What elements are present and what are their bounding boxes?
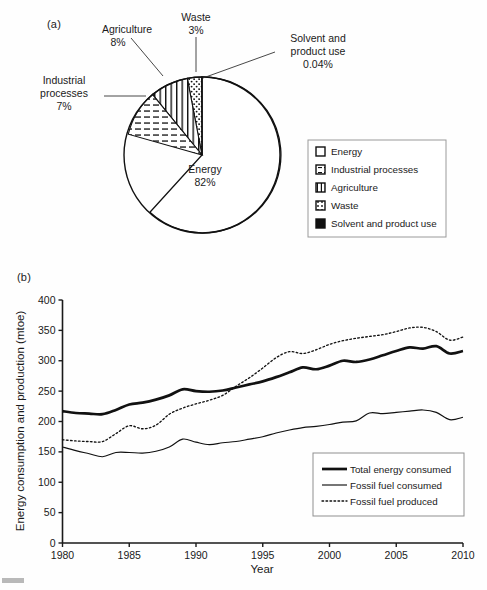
pie-legend-item-energy[interactable]: Energy (316, 146, 362, 157)
pie-legend-label-solvent-and-product-use: Solvent and product use (331, 218, 437, 229)
line-chart-legend: Total energy consumed Fossil fuel consum… (313, 453, 464, 516)
line-chart: 050100150200250300350400 198019851990199… (14, 294, 475, 575)
x-tick-label: 2000 (318, 549, 342, 561)
y-tick-label: 250 (38, 385, 56, 397)
line-legend-label-fossil-fuel-produced: Fossil fuel produced (350, 496, 438, 507)
page-edge-mark (2, 578, 24, 583)
x-tick-label: 1990 (184, 549, 208, 561)
line-legend-label-fossil-fuel-consumed: Fossil fuel consumed (350, 480, 442, 491)
pie-legend-item-industrial-processes[interactable]: Industrial processes (316, 164, 418, 175)
pie-legend-swatch-solvent-and-product-use (316, 219, 325, 228)
series-line-fossil-fuel-consumed[interactable] (63, 410, 464, 457)
y-tick-label: 100 (38, 476, 56, 488)
leader-line-agriculture (131, 38, 163, 76)
pie-callout-solvent-label-line2: product use (291, 45, 346, 57)
pie-legend-item-agriculture[interactable]: Agriculture (316, 182, 378, 193)
figure-canvas: Agriculture 8% Waste 3% Solvent and prod… (0, 0, 487, 590)
pie-callout-solvent-value: 0.04% (303, 58, 333, 70)
x-axis-title: Year (250, 563, 273, 575)
line-legend-label-total-energy-consumed: Total energy consumed (350, 464, 451, 475)
pie-callout-industrial-label-line2: processes (40, 87, 88, 99)
y-tick-label: 300 (38, 354, 56, 366)
y-axis-tick-labels: 050100150200250300350400 (38, 294, 56, 549)
pie-callout-solvent-label-line1: Solvent and (290, 32, 346, 44)
series-line-total-energy-consumed[interactable] (63, 346, 464, 414)
pie-callout-energy-value: 82% (194, 176, 215, 188)
y-tick-label: 350 (38, 324, 56, 336)
y-tick-label: 400 (38, 294, 56, 306)
leader-line-solvent (203, 52, 275, 78)
x-tick-label: 1995 (251, 549, 275, 561)
series-line-fossil-fuel-produced[interactable] (63, 327, 464, 442)
y-tick-label: 150 (38, 445, 56, 457)
pie-legend-swatch-industrial-processes (316, 165, 325, 174)
pie-callout-waste-label: Waste (181, 11, 211, 23)
x-tick-label: 1985 (118, 549, 142, 561)
pie-legend-label-waste: Waste (331, 200, 359, 211)
x-axis-tick-labels: 1980198519901995200020052010 (51, 549, 475, 561)
pie-legend-swatch-agriculture (316, 183, 325, 192)
x-tick-label: 2010 (451, 549, 475, 561)
pie-legend-item-waste[interactable]: Waste (316, 200, 359, 211)
pie-legend-swatch-waste (316, 201, 325, 210)
pie-legend-swatch-energy (316, 147, 325, 156)
pie-callout-agriculture-value: 8% (110, 36, 125, 48)
pie-legend-label-agriculture: Agriculture (331, 182, 378, 193)
y-axis-title: Energy consumption and production (mtoe) (14, 311, 26, 532)
x-tick-label: 1980 (51, 549, 75, 561)
pie-callout-industrial-value: 7% (56, 100, 71, 112)
pie-chart: Agriculture 8% Waste 3% Solvent and prod… (40, 11, 446, 237)
pie-callout-agriculture-label: Agriculture (102, 23, 152, 35)
figure-root: (a) (b) (0, 0, 487, 590)
pie-legend: Energy Industrial processes Agriculture … (308, 140, 446, 237)
pie-legend-label-energy: Energy (331, 146, 362, 157)
y-tick-label: 200 (38, 415, 56, 427)
pie-callout-energy-label: Energy (188, 163, 222, 175)
y-tick-label: 50 (44, 506, 56, 518)
x-tick-label: 2005 (385, 549, 409, 561)
pie-callout-waste-value: 3% (188, 24, 203, 36)
y-tick-label: 0 (50, 537, 56, 549)
pie-legend-item-solvent-and-product-use[interactable]: Solvent and product use (316, 218, 437, 229)
pie-callout-industrial-label-line1: Industrial (43, 74, 86, 86)
pie-legend-label-industrial-processes: Industrial processes (331, 164, 418, 175)
